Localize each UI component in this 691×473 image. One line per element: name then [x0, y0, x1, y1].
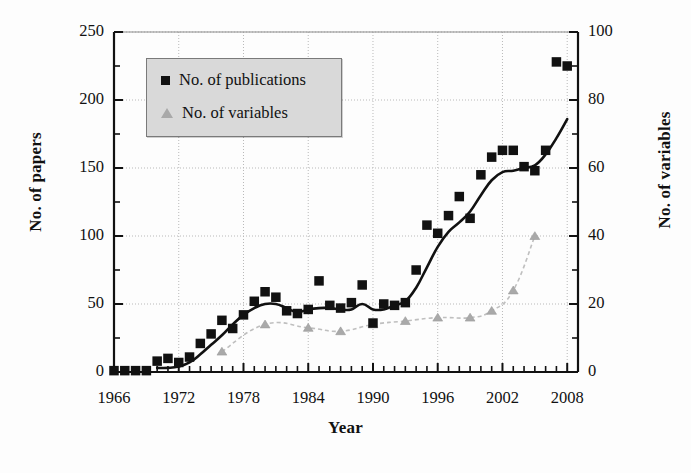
y-axis-right-tick-label: 20	[588, 293, 648, 313]
x-axis-tick-label: 2008	[537, 388, 597, 408]
legend-item-publications: No. of publications	[161, 70, 306, 90]
x-axis-tick-label: 1972	[149, 388, 209, 408]
y-axis-right-tick-label: 0	[588, 361, 648, 381]
y-axis-right-tick-label: 100	[588, 21, 648, 41]
x-axis-tick-label: 1966	[84, 388, 144, 408]
x-axis-tick-label: 1984	[278, 388, 338, 408]
x-axis-tick-label: 1996	[408, 388, 468, 408]
y-axis-right-tick-label: 80	[588, 89, 648, 109]
legend-label-publications: No. of publications	[179, 70, 306, 90]
y-axis-left-tick-label: 0	[44, 361, 104, 381]
publications-trend-line	[157, 119, 567, 368]
x-axis-tick-label: 2002	[472, 388, 532, 408]
y-axis-right-tick-label: 60	[588, 157, 648, 177]
x-axis-tick-label: 1978	[213, 388, 273, 408]
y-axis-left-tick-label: 250	[44, 21, 104, 41]
legend-triangle-marker-icon	[161, 108, 173, 118]
chart-figure: No. of papers No. of variables Year 0501…	[0, 0, 691, 473]
legend-item-variables: No. of variables	[161, 103, 288, 123]
y-axis-left-tick-label: 50	[44, 293, 104, 313]
y-axis-right-tick-label: 40	[588, 225, 648, 245]
legend-label-variables: No. of variables	[182, 103, 288, 123]
chart-legend: No. of publications No. of variables	[146, 58, 342, 137]
x-axis-tick-label: 1990	[343, 388, 403, 408]
y-axis-left-tick-label: 200	[44, 89, 104, 109]
y-axis-left-tick-label: 150	[44, 157, 104, 177]
legend-square-marker-icon	[161, 76, 170, 85]
y-axis-left-tick-label: 100	[44, 225, 104, 245]
